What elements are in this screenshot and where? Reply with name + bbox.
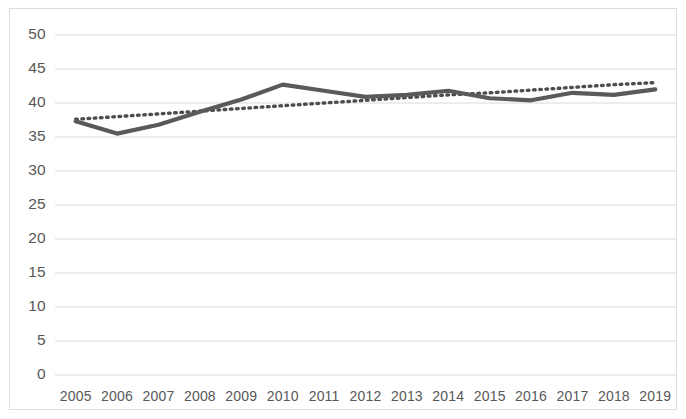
trendline-series — [76, 83, 656, 120]
plot-area — [0, 0, 686, 419]
value-series-line — [76, 85, 656, 134]
chart-container: 05101520253035404550 2005200620072008200… — [0, 0, 686, 419]
